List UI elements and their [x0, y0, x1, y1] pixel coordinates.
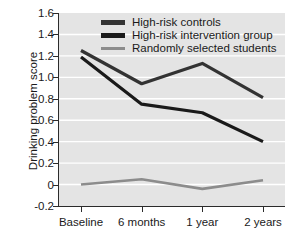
y-tick-label: 1.4	[38, 28, 54, 40]
legend-color-swatch	[101, 20, 125, 25]
y-tick-mark	[53, 206, 58, 207]
y-tick-label: 0.8	[38, 93, 54, 105]
legend-label: High-risk controls	[132, 17, 221, 28]
y-tick-label: 0.6	[38, 114, 54, 126]
legend-label: High-risk intervention group	[132, 30, 273, 41]
x-tick-label: 2 years	[244, 216, 282, 228]
y-tick-mark	[53, 120, 58, 121]
y-tick-label: 1.2	[38, 50, 54, 62]
y-tick-label: -0.2	[34, 200, 54, 212]
x-tick-mark	[81, 207, 82, 212]
x-tick-mark	[142, 207, 143, 212]
x-axis-line	[58, 206, 285, 207]
y-tick-mark	[53, 13, 58, 14]
y-tick-label: 1.6	[38, 7, 54, 19]
y-tick-mark	[53, 142, 58, 143]
y-tick-mark	[53, 34, 58, 35]
y-tick-label: 0.2	[38, 157, 54, 169]
y-tick-mark	[53, 163, 58, 164]
y-tick-mark	[53, 99, 58, 100]
legend-item: High-risk intervention group	[101, 30, 281, 41]
y-axis-tick-labels: 1.61.41.21.00.80.60.40.20-0.2	[24, 0, 54, 243]
legend-color-swatch	[101, 47, 125, 51]
x-tick-label: 1 year	[186, 216, 218, 228]
x-tick-label: Baseline	[59, 216, 103, 228]
legend-item: Randomly selected students	[101, 43, 281, 54]
chart-figure: Drinking problem score 1.61.41.21.00.80.…	[0, 0, 295, 243]
y-tick-label: 0.4	[38, 136, 54, 148]
legend-item: High-risk controls	[101, 17, 281, 28]
y-tick-mark	[53, 185, 58, 186]
chart-legend: High-risk controlsHigh-risk intervention…	[101, 17, 281, 56]
legend-color-swatch	[101, 33, 125, 38]
y-tick-mark	[53, 77, 58, 78]
series-line	[81, 51, 263, 98]
legend-label: Randomly selected students	[132, 43, 276, 54]
y-tick-label: 1.0	[38, 71, 54, 83]
x-tick-mark	[202, 207, 203, 212]
x-tick-mark	[263, 207, 264, 212]
x-tick-label: 6 months	[118, 216, 165, 228]
y-tick-mark	[53, 56, 58, 57]
